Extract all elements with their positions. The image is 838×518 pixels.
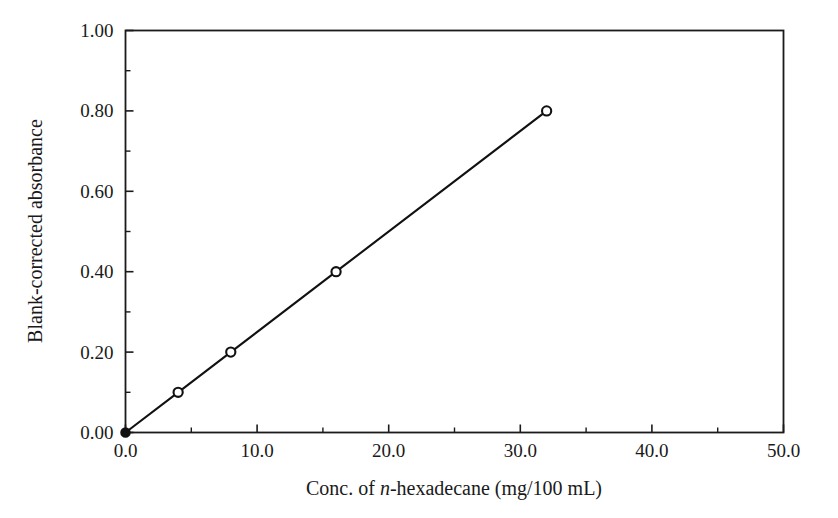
data-point-marker <box>121 428 129 436</box>
y-tick-label: 0.40 <box>80 261 113 282</box>
y-tick-label: 1.00 <box>80 20 113 41</box>
data-point-marker <box>174 388 183 397</box>
x-axis-title: Conc. of n-hexadecane (mg/100 mL) <box>306 477 602 500</box>
x-tick-label: 20.0 <box>372 440 405 461</box>
data-point-marker <box>542 106 551 115</box>
data-point-marker <box>331 267 340 276</box>
y-tick-label: 0.20 <box>80 342 113 363</box>
x-tick-label: 50.0 <box>767 440 800 461</box>
data-point-marker <box>226 348 235 357</box>
figure-container: 0.010.020.030.040.050.0 0.000.200.400.60… <box>0 0 838 518</box>
x-tick-label: 0.0 <box>114 440 138 461</box>
y-tick-label: 0.60 <box>80 181 113 202</box>
x-tick-label: 40.0 <box>635 440 668 461</box>
y-tick-label: 0.00 <box>80 422 113 443</box>
x-tick-label: 30.0 <box>504 440 537 461</box>
y-tick-label: 0.80 <box>80 100 113 121</box>
calibration-curve-chart: 0.010.020.030.040.050.0 0.000.200.400.60… <box>0 0 838 518</box>
x-tick-label: 10.0 <box>240 440 273 461</box>
y-axis-title: Blank-corrected absorbance <box>24 119 46 343</box>
